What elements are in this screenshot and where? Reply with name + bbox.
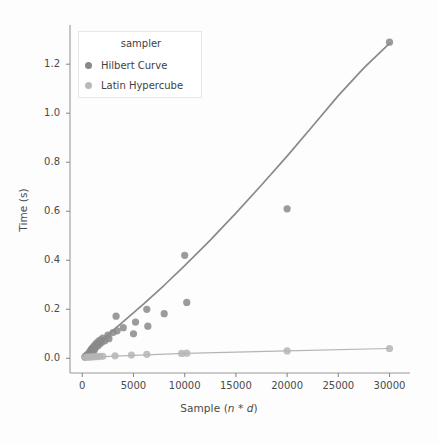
data-point [130, 330, 137, 337]
data-point [99, 353, 106, 360]
data-point [144, 323, 151, 330]
legend-marker-icon [85, 82, 92, 89]
data-point [386, 39, 393, 46]
data-point [386, 345, 393, 352]
legend-box: sampler Hilbert Curve Latin Hypercube [78, 31, 202, 98]
scatter-plot-canvas [0, 0, 438, 444]
legend-title: sampler [79, 38, 203, 49]
y-tick-label: 0.0 [20, 352, 60, 363]
legend-item-label: Latin Hypercube [101, 80, 183, 91]
chart-figure: 050001000015000200002500030000 0.00.20.4… [0, 0, 438, 444]
data-point [132, 318, 139, 325]
data-point [114, 327, 121, 334]
data-point [128, 352, 135, 359]
data-point [143, 351, 150, 358]
legend-marker-icon [85, 62, 92, 69]
x-axis-label-text: Sample (n * d) [180, 402, 258, 414]
y-tick-label: 1.2 [20, 58, 60, 69]
data-point [112, 313, 119, 320]
y-tick-label: 0.4 [20, 254, 60, 265]
data-point [284, 347, 291, 354]
legend-item-hilbert-curve[interactable]: Hilbert Curve [85, 56, 167, 74]
y-tick-label: 1.0 [20, 107, 60, 118]
data-point [120, 324, 127, 331]
legend-item-label: Hilbert Curve [101, 60, 167, 71]
data-point [161, 310, 168, 317]
data-point [183, 299, 190, 306]
data-point [181, 252, 188, 259]
x-axis-label: Sample (n * d) [0, 402, 438, 414]
x-tick-label: 30000 [360, 380, 420, 391]
y-tick-marks [66, 64, 70, 358]
y-tick-label: 0.2 [20, 303, 60, 314]
y-axis-label-text: Time (s) [17, 188, 29, 232]
data-point [183, 350, 190, 357]
data-point [111, 352, 118, 359]
legend-item-latin-hypercube[interactable]: Latin Hypercube [85, 76, 183, 94]
data-point [143, 306, 150, 313]
data-point [105, 335, 112, 342]
y-axis-label: Time (s) [17, 165, 29, 255]
data-point [284, 205, 291, 212]
x-tick-marks [82, 373, 389, 377]
